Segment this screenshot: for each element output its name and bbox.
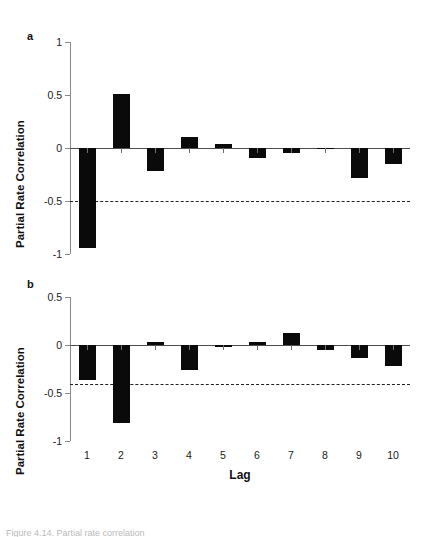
panel-a-y-tick-label: -1 — [53, 248, 62, 260]
panel-a-y-axis-title: Partial Rate Correlation — [14, 120, 26, 248]
panel-a-y-tick-label: 0.5 — [47, 89, 62, 101]
panel-b-x-tick — [155, 345, 156, 350]
panel-b-x-tick — [291, 345, 292, 350]
panel-b-x-tick — [325, 345, 326, 350]
panel-a-x-tick — [393, 148, 394, 153]
panel-b-x-tick — [359, 345, 360, 350]
panel-a: a Partial Rate Correlation 10.50-0.5-1 — [0, 0, 428, 270]
x-tick-label: 9 — [356, 449, 362, 461]
x-tick-label: 5 — [220, 449, 226, 461]
x-tick-label: 3 — [152, 449, 158, 461]
panel-b-y-tick — [65, 297, 70, 298]
x-tick-label: 7 — [288, 449, 294, 461]
panel-b-y-axis-title: Partial Rate Correlation — [14, 347, 26, 475]
panel-b-label: b — [27, 278, 34, 290]
x-tick-label: 8 — [322, 449, 328, 461]
panel-a-x-tick — [223, 148, 224, 153]
panel-b-x-tick — [87, 345, 88, 350]
panel-b-y-tick — [65, 393, 70, 394]
panel-b-plot-area: 0.50-0.5-112345678910 — [70, 297, 410, 441]
panel-a-plot-area: 10.50-0.5-1 — [70, 42, 410, 254]
panel-a-y-tick-label: -0.5 — [44, 195, 62, 207]
panel-b-x-tick — [257, 345, 258, 350]
panel-a-y-tick — [65, 201, 70, 202]
panel-a-x-tick — [257, 148, 258, 153]
x-tick-label: 1 — [84, 449, 90, 461]
panel-a-x-tick — [87, 148, 88, 153]
bar — [113, 94, 130, 148]
panel-a-label: a — [27, 30, 33, 42]
panel-b-x-tick — [223, 345, 224, 350]
panel-b-y-tick — [65, 345, 70, 346]
panel-a-x-tick — [359, 148, 360, 153]
bar — [113, 345, 130, 423]
x-axis-title: Lag — [229, 468, 250, 482]
panel-a-y-tick — [65, 42, 70, 43]
x-tick-label: 4 — [186, 449, 192, 461]
panel-a-x-tick — [291, 148, 292, 153]
panel-b-y-axis — [70, 297, 71, 441]
panel-b-x-tick — [189, 345, 190, 350]
panel-a-y-tick — [65, 148, 70, 149]
figure-caption-sliver: Figure 4.14. Partial rate correlation — [6, 528, 306, 537]
panel-b-y-tick-label: 0 — [56, 339, 62, 351]
panel-a-y-tick — [65, 254, 70, 255]
bar — [283, 333, 300, 345]
panel-a-confidence-bound — [70, 201, 410, 202]
panel-b-x-tick — [393, 345, 394, 350]
panel-a-y-tick-label: 1 — [56, 36, 62, 48]
panel-b: b Partial Rate Correlation 0.50-0.5-1123… — [0, 270, 428, 495]
panel-a-x-tick — [189, 148, 190, 153]
panel-a-y-tick-label: 0 — [56, 142, 62, 154]
x-tick-label: 6 — [254, 449, 260, 461]
panel-a-y-tick — [65, 95, 70, 96]
panel-b-x-tick — [121, 345, 122, 350]
panel-b-y-tick-label: -1 — [53, 435, 62, 447]
bar — [79, 148, 96, 248]
panel-a-x-tick — [325, 148, 326, 153]
x-tick-label: 10 — [387, 449, 399, 461]
panel-a-x-tick — [155, 148, 156, 153]
x-tick-label: 2 — [118, 449, 124, 461]
bar — [181, 137, 198, 148]
panel-b-y-tick — [65, 441, 70, 442]
panel-a-x-tick — [121, 148, 122, 153]
bar — [79, 345, 96, 380]
panel-b-y-tick-label: 0.5 — [47, 291, 62, 303]
panel-b-y-tick-label: -0.5 — [44, 387, 62, 399]
